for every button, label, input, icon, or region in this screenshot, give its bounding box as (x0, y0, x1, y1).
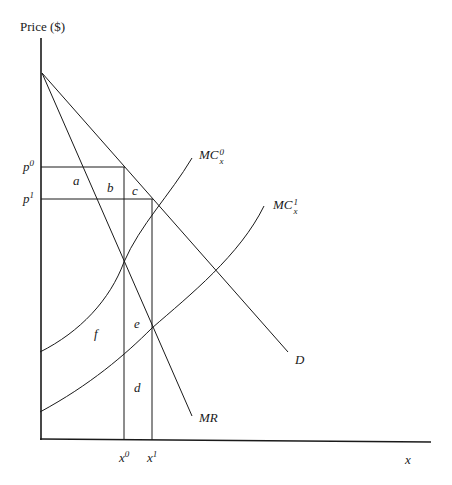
area-f-label: f (94, 327, 98, 340)
area-e-label: e (134, 317, 140, 330)
mc1-label: MC 1x (273, 198, 298, 216)
mr-label: MR (199, 411, 218, 424)
x-axis (40, 439, 431, 442)
mc0-label: MC 0x (199, 148, 224, 166)
demand-curve (42, 73, 288, 352)
area-d-label: d (134, 381, 141, 394)
demand-label: D (295, 353, 304, 366)
marginal-revenue-curve (42, 73, 192, 416)
p1-label: p1 (23, 192, 34, 205)
area-b-label: b (107, 181, 114, 194)
area-c-label: c (132, 184, 138, 197)
p0-label: p0 (23, 160, 34, 173)
mc0-curve (40, 158, 192, 352)
y-axis-title: Price ($) (20, 20, 65, 33)
x-axis-title: x (405, 453, 411, 466)
x1-label: x1 (147, 451, 157, 464)
x0-label: x0 (119, 451, 129, 464)
diagram-canvas (0, 0, 452, 485)
area-a-label: a (73, 174, 80, 187)
